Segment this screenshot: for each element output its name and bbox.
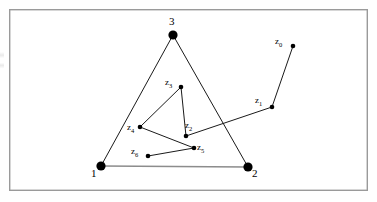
vertex-label-2: 2: [252, 168, 258, 179]
point-label-subscript: 5: [201, 147, 204, 154]
figure-border: [10, 10, 368, 191]
point-node-z1: [270, 105, 275, 110]
vertex-node-v1: [96, 161, 105, 170]
figure-canvas: [0, 0, 377, 202]
point-node-z5: [192, 146, 197, 151]
figure-root: 123z0z1z2z3z4z5z6: [0, 0, 377, 202]
point-label-subscript: 2: [189, 125, 192, 132]
edge-v1-v2: [101, 166, 248, 167]
point-label-z4: z4: [127, 123, 134, 132]
point-label-z3: z3: [165, 78, 172, 87]
point-node-z6: [146, 154, 151, 159]
point-label-subscript: 3: [169, 82, 172, 89]
point-node-z0: [291, 44, 296, 49]
point-label-subscript: 1: [259, 100, 262, 107]
point-node-z4: [138, 125, 143, 130]
point-label-z2: z2: [185, 121, 192, 130]
point-label-subscript: 6: [135, 151, 138, 158]
point-label-subscript: 4: [131, 127, 134, 134]
point-node-z2: [184, 134, 189, 139]
point-label-z5: z5: [197, 143, 204, 152]
vertex-node-v3: [168, 30, 177, 39]
vertex-label-1: 1: [91, 168, 97, 179]
point-node-z3: [179, 85, 184, 90]
vertex-label-3: 3: [169, 16, 175, 27]
point-label-z1: z1: [255, 96, 262, 105]
point-label-subscript: 0: [279, 41, 282, 48]
point-label-z0: z0: [275, 37, 282, 46]
point-label-z6: z6: [131, 147, 138, 156]
